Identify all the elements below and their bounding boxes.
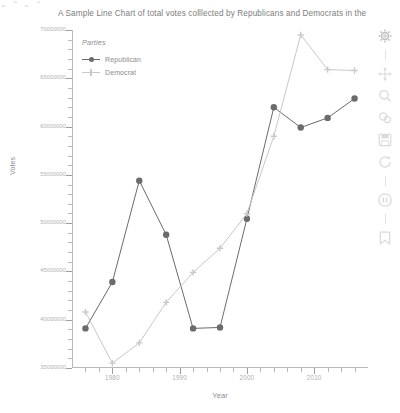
refresh-reset-icon[interactable]	[377, 154, 393, 170]
x-axis-title: Year	[72, 391, 368, 400]
chart-toolbar[interactable]	[372, 28, 398, 246]
x-tick-label: 2000	[227, 374, 267, 381]
series-line	[85, 35, 354, 363]
help-bookmark-icon[interactable]	[377, 230, 393, 246]
legend-item[interactable]: Republican	[82, 53, 192, 66]
zoom-search-icon[interactable]	[377, 88, 393, 104]
legend-title: Parties	[82, 38, 192, 47]
x-tick-minor	[328, 368, 329, 372]
x-tick-minor	[153, 368, 154, 372]
y-tick-label: 50000000	[6, 219, 66, 225]
toolbar-separator	[385, 50, 386, 60]
clipped-top-strip-text: ⌄ ⌃ ⌄ ⌃	[0, 0, 43, 7]
data-point[interactable]	[271, 133, 277, 139]
x-tick-minor	[85, 368, 86, 372]
x-tick-minor	[301, 368, 302, 372]
x-tick-minor	[355, 368, 356, 372]
plot-area: 3500000040000000450000005000000055000000…	[72, 30, 368, 368]
info-circle-icon[interactable]	[377, 192, 393, 208]
data-point[interactable]	[82, 325, 88, 331]
x-tick-minor	[207, 368, 208, 372]
x-tick-label: 2010	[294, 374, 334, 381]
data-point[interactable]	[190, 325, 196, 331]
x-tick-minor	[287, 368, 288, 372]
clipped-top-strip: ⌄ ⌃ ⌄ ⌃	[0, 0, 400, 7]
y-tick-label: 35000000	[6, 364, 66, 370]
x-tick-label: 1990	[160, 374, 200, 381]
data-point[interactable]	[136, 177, 142, 183]
legend-entries: RepublicanDemocrat	[82, 53, 192, 79]
y-tick-label: 45000000	[6, 267, 66, 273]
toolbar-separator	[385, 214, 386, 224]
legend-item[interactable]: Democrat	[82, 66, 192, 79]
data-point[interactable]	[298, 124, 304, 130]
data-point[interactable]	[82, 309, 88, 315]
y-tick-label: 70000000	[6, 26, 66, 32]
x-tick-minor	[166, 368, 167, 372]
y-tick-label: 60000000	[6, 123, 66, 129]
x-tick-minor	[260, 368, 261, 372]
x-tick-minor	[220, 368, 221, 372]
chart-screenshot: ⌄ ⌃ ⌄ ⌃ A Sample Line Chart of total vot…	[0, 0, 400, 413]
circle-marker	[82, 55, 100, 65]
data-point[interactable]	[217, 324, 223, 330]
y-tick	[66, 368, 72, 369]
toolbar-separator	[385, 176, 386, 186]
chart-title: A Sample Line Chart of total votes colll…	[58, 9, 400, 22]
x-tick-minor	[139, 368, 140, 372]
settings-gear-icon[interactable]	[377, 28, 393, 44]
data-point[interactable]	[163, 232, 169, 238]
data-point[interactable]	[351, 67, 357, 73]
x-tick-minor	[99, 368, 100, 372]
series-layer	[72, 30, 368, 368]
series-democrat	[82, 32, 357, 367]
series-republican	[82, 95, 357, 331]
y-tick-label: 65000000	[6, 74, 66, 80]
x-tick-minor	[126, 368, 127, 372]
series-line	[85, 99, 354, 329]
y-tick-label: 40000000	[6, 316, 66, 322]
data-point[interactable]	[109, 279, 115, 285]
x-tick-label: 1980	[92, 374, 132, 381]
move-pan-icon[interactable]	[377, 66, 393, 82]
data-point[interactable]	[324, 115, 330, 121]
plus-marker	[82, 68, 100, 78]
x-tick-minor	[341, 368, 342, 372]
legend-item-label: Democrat	[105, 69, 136, 76]
legend: Parties RepublicanDemocrat	[82, 38, 192, 79]
data-point[interactable]	[351, 95, 357, 101]
x-tick-minor	[274, 368, 275, 372]
x-tick-minor	[233, 368, 234, 372]
zoom-region-icon[interactable]	[377, 110, 393, 126]
y-tick-label: 55000000	[6, 171, 66, 177]
legend-item-label: Republican	[105, 56, 141, 63]
data-point[interactable]	[271, 104, 277, 110]
x-tick-minor	[193, 368, 194, 372]
save-disk-icon[interactable]	[377, 132, 393, 148]
